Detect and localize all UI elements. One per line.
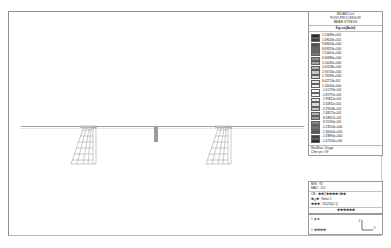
bridge-deck-line (21, 126, 304, 127)
legend-color-swatch (311, 112, 320, 116)
legend-color-swatch (311, 75, 320, 79)
contour-legend-panel[interactable]: MIDAS/Civil POST-PROCESSOR BEAM STRESS S… (308, 11, 383, 156)
legend-value: -1.33890e+000 (322, 135, 342, 138)
legend-color-swatch (311, 102, 320, 106)
axis-indicator-icon: Z X (358, 218, 376, 234)
abutment-right (205, 124, 239, 168)
legend-color-swatch (311, 125, 320, 129)
legend-value: -7.48175e-001 (322, 112, 341, 115)
legend-column-option: Clmn pn: Off (311, 150, 380, 154)
legend-color-swatch (311, 38, 320, 42)
axis-triad-panel[interactable]: 1. �ܸ� 2. ���� Z X (308, 214, 383, 235)
legend-color-swatch (311, 80, 320, 84)
legend-color-swatch (311, 116, 320, 120)
info-caption: ������ (309, 207, 382, 214)
legend-value: 8.42713e-001 (322, 80, 341, 83)
legend-color-swatch (311, 70, 320, 74)
legend-color-swatch (311, 43, 320, 47)
legend-color-swatch (311, 61, 320, 65)
abutment-left (70, 124, 104, 168)
legend-color-swatch (311, 84, 320, 88)
legend-footer: Min/Max: Usage Clmn pn: Off (309, 145, 382, 155)
legend-color-swatch (311, 93, 320, 97)
legend-value: -1.23554e+000 (322, 126, 342, 129)
legend-header: MIDAS/Civil POST-PROCESSOR BEAM STRESS (309, 12, 382, 26)
central-pier (154, 127, 158, 142)
legend-result-type: BEAM STRESS (309, 20, 382, 24)
legend-value: 1.21689e+001 (322, 34, 341, 37)
legend-color-swatch (311, 121, 320, 125)
legend-value: -1.47100e+000 (322, 140, 342, 143)
legend-color-swatch (311, 139, 320, 143)
legend-color-swatch (311, 57, 320, 61)
legend-value: -1.41759e-001 (322, 89, 341, 92)
result-info-panel[interactable]: MIN : 92 MAX : 110 CB : ��Ʈ���� 0�� �ݷ� … (308, 181, 383, 214)
legend-color-swatch (311, 98, 320, 102)
svg-text:X: X (374, 226, 377, 230)
legend-color-swatch (311, 47, 320, 51)
legend-color-swatch (311, 52, 320, 56)
legend-value: 9.83444e+000 (322, 43, 341, 46)
application-window: MIDAS/Civil POST-PROCESSOR BEAM STRESS S… (0, 0, 391, 248)
legend-color-swatch (311, 89, 320, 93)
triad-top-label: 1. �ܸ� (311, 217, 320, 221)
legend-row: -1.47100e+000 (311, 139, 380, 144)
legend-color-swatch (311, 66, 320, 70)
triad-bottom-label: 2. ���� (311, 228, 326, 232)
legend-value: 4.05108e+000 (322, 66, 341, 69)
legend-color-swatch (311, 34, 320, 38)
svg-text:Z: Z (359, 219, 361, 223)
legend-color-swatch (311, 135, 320, 139)
legend-color-swatch (311, 107, 320, 111)
legend-value: 6.30386e+000 (322, 57, 341, 60)
legend-swatch-list: 1.21689e+001 1.09543e+001 9.83444e+000 8… (309, 32, 382, 144)
legend-color-swatch (311, 130, 320, 134)
bridge-deck-shadow-line (21, 128, 304, 129)
legend-value: -3.32811e-001 (322, 103, 341, 106)
